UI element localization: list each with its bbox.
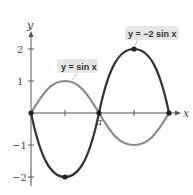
- callout-neg2-sin-x-text: y = −2 sin x: [128, 29, 177, 39]
- x-axis-label: x: [183, 107, 190, 120]
- y-tick-label-1: 1: [17, 76, 23, 87]
- x-tick-label-pi: π: [95, 117, 103, 127]
- callout-neg2-sin-x: y = −2 sin x: [125, 26, 179, 46]
- x-axis-arrow-icon: [175, 111, 181, 116]
- y-tick-label-neg2: −2: [12, 172, 27, 183]
- y-tick-label-neg1: −1: [12, 140, 27, 151]
- y-tick-label-2: 2: [17, 44, 23, 55]
- y-axis-label: y: [26, 19, 34, 32]
- callout-sin-x-text: y = sin x: [61, 62, 97, 72]
- chart: 2 1 −1 −2 π y x y = sin x y = −2 sin x: [0, 0, 193, 195]
- callout-sin-x: y = sin x: [57, 59, 98, 80]
